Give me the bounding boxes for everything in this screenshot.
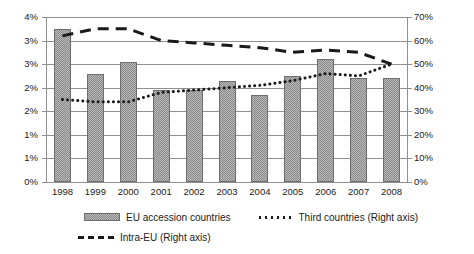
legend-item-eu-accession-countries: EU accession countries xyxy=(84,212,231,223)
right-axis-tick-mark xyxy=(408,41,412,42)
bar xyxy=(350,78,367,182)
right-axis-tick-label: 40% xyxy=(414,83,454,93)
x-axis-tick-label: 2006 xyxy=(309,186,343,197)
right-axis-tick-mark xyxy=(408,111,412,112)
x-axis-tick-label: 2007 xyxy=(342,186,376,197)
legend-item-intra-eu: Intra-EU (Right axis) xyxy=(78,232,211,243)
bar xyxy=(251,95,268,182)
left-axis-tick-label: 3% xyxy=(0,36,38,46)
left-axis-tick-label: 3% xyxy=(0,59,38,69)
bar xyxy=(383,78,400,182)
right-axis-tick-label: 0% xyxy=(414,177,454,187)
x-axis-labels: 1998199920002001200220032004200520062007… xyxy=(46,186,408,200)
left-axis-tick-mark xyxy=(42,88,46,89)
left-axis-tick-label: 4% xyxy=(0,12,38,22)
left-axis-tick-label: 1% xyxy=(0,153,38,163)
right-axis-tick-label: 10% xyxy=(414,153,454,163)
left-axis-tick-label: 0% xyxy=(0,177,38,187)
left-axis-tick-mark xyxy=(42,135,46,136)
x-axis-tick-label: 2004 xyxy=(243,186,277,197)
x-axis-tick-label: 2001 xyxy=(144,186,178,197)
x-axis-tick-label: 2000 xyxy=(111,186,145,197)
x-axis-tick-label: 2002 xyxy=(177,186,211,197)
left-axis-tick-mark xyxy=(42,182,46,183)
bar xyxy=(284,76,301,182)
legend-label: EU accession countries xyxy=(126,212,231,223)
right-axis-tick-mark xyxy=(408,135,412,136)
plot-area xyxy=(46,17,408,182)
dotted-line-icon xyxy=(257,216,293,219)
legend-label: Intra-EU (Right axis) xyxy=(120,232,211,243)
x-axis-tick-label: 1998 xyxy=(45,186,79,197)
x-axis-tick-label: 1999 xyxy=(78,186,112,197)
right-axis-tick-mark xyxy=(408,64,412,65)
bar xyxy=(317,59,334,182)
x-axis-tick-label: 2003 xyxy=(210,186,244,197)
left-axis-tick-mark xyxy=(42,41,46,42)
bar xyxy=(87,74,104,182)
right-axis-tick-mark xyxy=(408,158,412,159)
bar xyxy=(54,29,71,182)
bar xyxy=(186,90,203,182)
left-axis-tick-mark xyxy=(42,158,46,159)
dashed-line-icon xyxy=(78,236,114,239)
left-axis-tick-label: 2% xyxy=(0,106,38,116)
right-axis-tick-label: 50% xyxy=(414,59,454,69)
legend-item-third-countries: Third countries (Right axis) xyxy=(257,212,418,223)
right-axis-tick-mark xyxy=(408,182,412,183)
x-axis-tick-label: 2005 xyxy=(276,186,310,197)
bar-series-eu-accession-countries xyxy=(46,17,408,182)
left-axis-tick-label: 2% xyxy=(0,83,38,93)
bar xyxy=(219,81,236,182)
right-axis-tick-mark xyxy=(408,17,412,18)
bar xyxy=(153,90,170,182)
right-axis-tick-label: 30% xyxy=(414,106,454,116)
chart-container: 0%1%1%2%2%3%3%4% 0%10%20%30%40%50%60%70%… xyxy=(0,0,474,254)
right-axis-tick-label: 20% xyxy=(414,130,454,140)
left-axis-tick-mark xyxy=(42,111,46,112)
bar xyxy=(120,62,137,182)
bar-swatch-icon xyxy=(84,213,120,221)
gridline xyxy=(46,182,408,183)
left-axis-tick-mark xyxy=(42,64,46,65)
legend-label: Third countries (Right axis) xyxy=(299,212,418,223)
right-axis-tick-label: 70% xyxy=(414,12,454,22)
left-axis-tick-mark xyxy=(42,17,46,18)
right-axis-tick-mark xyxy=(408,88,412,89)
right-axis-tick-label: 60% xyxy=(414,36,454,46)
left-axis-tick-label: 1% xyxy=(0,130,38,140)
x-axis-tick-label: 2008 xyxy=(375,186,409,197)
